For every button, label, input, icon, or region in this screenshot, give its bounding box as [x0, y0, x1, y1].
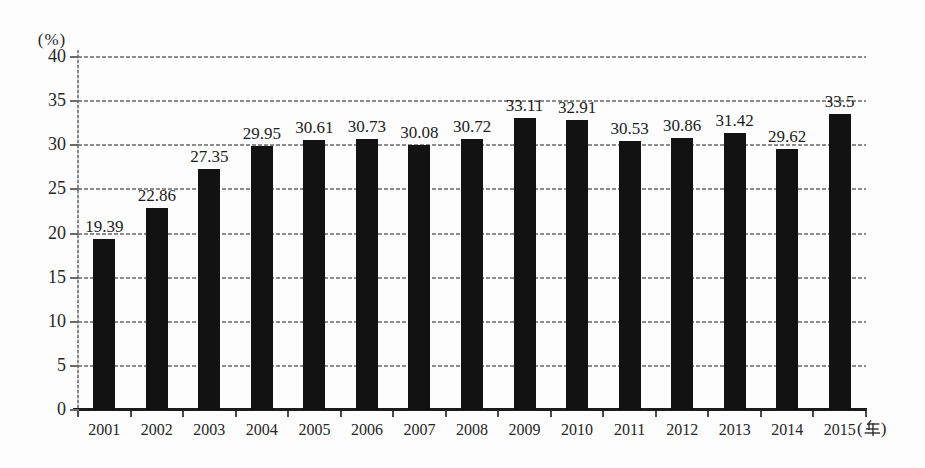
x-tick-label-2001: 2001 [74, 420, 134, 439]
y-tick-35 [70, 100, 79, 102]
gridline-40 [78, 56, 866, 58]
x-tick-label-2002: 2002 [127, 420, 187, 439]
bar-value-label-2015: 33.5 [808, 92, 872, 112]
x-tick-12 [707, 411, 709, 417]
x-tick-6 [392, 411, 394, 417]
x-tick-label-2007: 2007 [389, 420, 449, 439]
x-tick-11 [655, 411, 657, 417]
bar-2009 [514, 118, 536, 410]
x-tick-label-2015: 2015 [810, 420, 870, 439]
y-tick-30 [70, 144, 79, 146]
x-tick-label-2004: 2004 [232, 420, 292, 439]
x-tick-2 [182, 411, 184, 417]
x-tick-13 [760, 411, 762, 417]
x-tick-label-2008: 2008 [442, 420, 502, 439]
x-tick-8 [497, 411, 499, 417]
y-tick-label-5: 5 [20, 355, 66, 375]
x-tick-14 [812, 411, 814, 417]
bar-2011 [619, 141, 641, 410]
x-tick-label-2013: 2013 [705, 420, 765, 439]
y-tick-label-20: 20 [20, 223, 66, 243]
y-tick-15 [70, 277, 79, 279]
y-tick-10 [70, 321, 79, 323]
x-tick-label-2011: 2011 [600, 420, 660, 439]
x-tick-label-2010: 2010 [547, 420, 607, 439]
x-tick-10 [602, 411, 604, 417]
x-unit-paren-close: ) [881, 419, 887, 438]
gridline-35 [78, 100, 866, 102]
bar-2014 [776, 149, 798, 410]
y-tick-label-15: 15 [20, 267, 66, 287]
x-tick-label-2006: 2006 [337, 420, 397, 439]
y-tick-20 [70, 233, 79, 235]
bar-2003 [198, 169, 220, 410]
x-tick-5 [340, 411, 342, 417]
x-tick-4 [287, 411, 289, 417]
bar-2013 [724, 133, 746, 410]
bar-2006 [356, 139, 378, 410]
bar-2012 [671, 138, 693, 410]
bar-2005 [303, 140, 325, 410]
bar-2010 [566, 120, 588, 410]
x-tick-3 [235, 411, 237, 417]
y-tick-40 [70, 56, 79, 58]
x-tick-label-2003: 2003 [179, 420, 239, 439]
x-tick-label-2005: 2005 [284, 420, 344, 439]
y-tick-label-30: 30 [20, 134, 66, 154]
bar-2002 [146, 208, 168, 410]
bar-value-label-2014: 29.62 [755, 127, 819, 147]
x-tick-7 [445, 411, 447, 417]
y-tick-label-40: 40 [20, 46, 66, 66]
y-tick-label-25: 25 [20, 178, 66, 198]
bar-value-label-2001: 19.39 [72, 217, 136, 237]
bar-2007 [408, 145, 430, 410]
y-tick-25 [70, 188, 79, 190]
x-tick-1 [130, 411, 132, 417]
bar-value-label-2010: 32.91 [545, 98, 609, 118]
x-tick-9 [550, 411, 552, 417]
bar-2008 [461, 139, 483, 410]
y-tick-label-35: 35 [20, 90, 66, 110]
x-tick-label-2009: 2009 [495, 420, 555, 439]
bar-value-label-2003: 27.35 [177, 147, 241, 167]
x-tick-0 [77, 411, 79, 417]
y-tick-label-10: 10 [20, 311, 66, 331]
bar-2001 [93, 239, 115, 410]
bar-2004 [251, 146, 273, 410]
bar-2015 [829, 114, 851, 410]
x-tick-label-2012: 2012 [652, 420, 712, 439]
bar-value-label-2008: 30.72 [440, 117, 504, 137]
bar-value-label-2002: 22.86 [125, 186, 189, 206]
y-tick-5 [70, 365, 79, 367]
x-tick-15 [865, 411, 867, 417]
x-tick-label-2014: 2014 [757, 420, 817, 439]
bar-chart: (%) ( ) 19.3922.8627.3529.9530.6130.7330… [0, 0, 925, 468]
y-tick-label-0: 0 [20, 399, 66, 419]
